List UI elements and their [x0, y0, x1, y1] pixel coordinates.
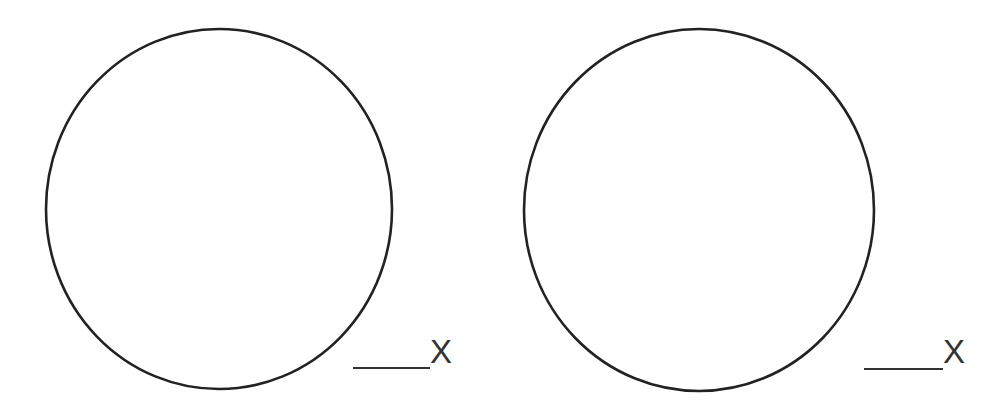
circle-right [524, 29, 874, 391]
answer-label-left: X [430, 335, 452, 368]
circles-layer [0, 0, 1007, 403]
circle-left [46, 29, 392, 389]
answer-blank-line-left[interactable] [353, 367, 430, 369]
answer-label-right: X [943, 335, 965, 368]
diagram-canvas: X X [0, 0, 1007, 403]
answer-blank-line-right[interactable] [864, 368, 943, 370]
